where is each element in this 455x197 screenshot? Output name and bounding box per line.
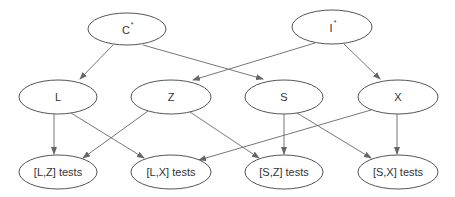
node-sz-tests-label: [S,Z] tests xyxy=(259,166,309,178)
dependency-diagram: C * I * L Z S X [L,Z] tests [L,X] tests … xyxy=(0,0,455,197)
node-l-label: L xyxy=(55,91,61,103)
node-lz-tests-label: [L,Z] tests xyxy=(34,166,83,178)
node-lz-tests: [L,Z] tests xyxy=(19,155,97,189)
edge-c-to-s xyxy=(143,45,263,79)
node-c-star-label: C xyxy=(122,24,130,36)
node-c-star: C * xyxy=(88,13,166,45)
node-x-label: X xyxy=(394,91,402,103)
edge-l-to-lx xyxy=(71,113,144,158)
edge-z-to-sz xyxy=(190,112,259,158)
node-s: S xyxy=(245,80,323,114)
node-z: Z xyxy=(131,80,211,114)
node-sx-tests-label: [S,X] tests xyxy=(373,166,424,178)
node-x: X xyxy=(358,80,438,114)
node-sz-tests: [S,Z] tests xyxy=(245,155,323,189)
node-c-star-superscript: * xyxy=(131,21,134,28)
node-z-label: Z xyxy=(168,91,175,103)
edge-c-to-l xyxy=(80,45,113,79)
node-i-star-superscript: * xyxy=(334,19,337,26)
node-lx-tests-label: [L,X] tests xyxy=(147,166,196,178)
edge-s-to-sx xyxy=(297,113,371,158)
node-l: L xyxy=(19,80,97,114)
node-sx-tests: [S,X] tests xyxy=(358,155,438,189)
edge-z-to-lz xyxy=(83,111,148,158)
node-i-star-label: I xyxy=(329,22,332,34)
node-lx-tests: [L,X] tests xyxy=(131,155,211,189)
edge-i-to-x xyxy=(344,44,380,79)
node-s-label: S xyxy=(280,91,287,103)
edge-i-to-z xyxy=(193,43,315,80)
node-i-star: I * xyxy=(292,10,372,44)
